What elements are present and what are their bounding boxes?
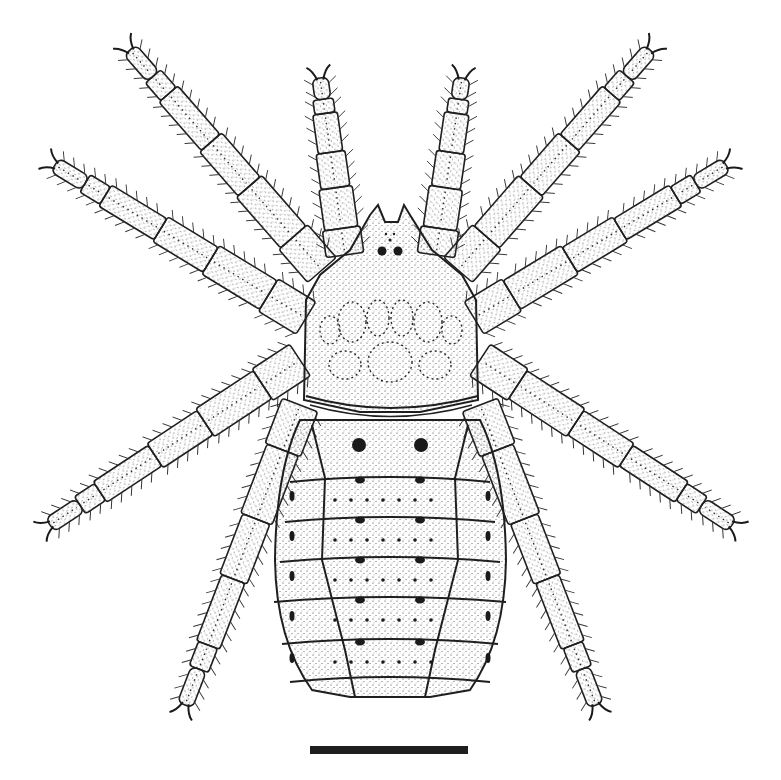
dorsal-spot-left [352, 438, 366, 452]
dorsal-spot-right [414, 438, 428, 452]
arachnid-illustration [0, 0, 781, 780]
eye-left [378, 247, 387, 256]
eye-right [394, 247, 403, 256]
scale-bar [310, 746, 468, 754]
opisthosoma [274, 420, 506, 697]
